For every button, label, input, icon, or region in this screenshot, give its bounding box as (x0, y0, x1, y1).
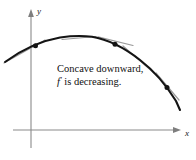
y-axis-group (28, 9, 34, 148)
annotation-line-2: f′ is decreasing. (57, 76, 121, 88)
curve-point-3 (165, 85, 170, 90)
annotation-line-2-text: f′ is decreasing. (57, 76, 121, 88)
figure-container: y x Concave downward, f′ is decreasing. (0, 0, 196, 160)
curve-point-1 (33, 43, 38, 48)
annotation-line-1: Concave downward, (57, 63, 143, 74)
calculus-figure: y x Concave downward, f′ is decreasing. (0, 0, 196, 160)
x-axis-arrowhead (173, 127, 181, 133)
curve-point-2 (113, 42, 118, 47)
y-axis-arrowhead (28, 9, 34, 17)
annotation-line-2-rest: is decreasing. (62, 76, 122, 87)
x-axis-label: x (184, 128, 189, 138)
x-axis-group (13, 127, 181, 133)
y-axis-label: y (36, 6, 41, 16)
